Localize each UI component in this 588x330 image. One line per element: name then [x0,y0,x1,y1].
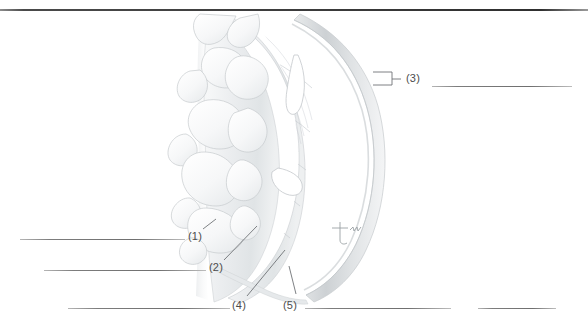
epicardium-layer [292,14,385,302]
callout-label-5: (5) [283,300,297,311]
heart-wall-illustration [0,0,588,330]
answer-line-2[interactable] [44,270,206,271]
answer-line-4[interactable] [68,308,230,309]
answer-line-5a[interactable] [305,308,451,309]
answer-line-1[interactable] [20,239,185,240]
callout-label-2: (2) [209,262,223,273]
callout-label-4: (4) [232,300,246,311]
worksheet-page: (1) (2) (3) (4) (5) [0,0,588,330]
callout-label-1: (1) [188,231,202,242]
trabeculae-carneae [168,14,268,264]
answer-line-5b[interactable] [478,308,556,309]
callout-label-3: (3) [406,73,420,84]
answer-line-3[interactable] [432,86,572,87]
